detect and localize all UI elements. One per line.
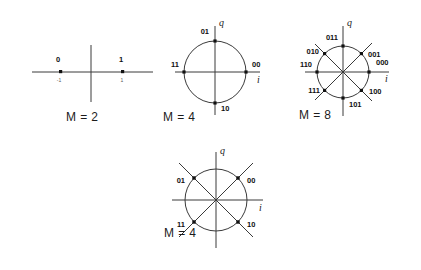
qpsk2-point-10 xyxy=(236,220,239,223)
qpsk2-point-00 xyxy=(236,176,239,179)
psk8-point-101 xyxy=(341,96,344,99)
qpsk-label-00: 00 xyxy=(252,60,260,69)
qpsk-label-01: 01 xyxy=(201,27,209,36)
qpsk-label-10: 10 xyxy=(221,104,229,113)
qpsk-offset-caption: M = 4 xyxy=(164,226,196,240)
bpsk-point-0 xyxy=(59,70,62,73)
psk8-label-100: 100 xyxy=(369,87,382,96)
psk8-label-010: 010 xyxy=(306,47,319,56)
psk8-label-111: 111 xyxy=(308,86,320,95)
qpsk-point-00 xyxy=(244,70,247,73)
bpsk-caption: M = 2 xyxy=(66,110,98,124)
bpsk-symbol-0: 0 xyxy=(56,55,60,64)
qpsk-i-axis-label: i xyxy=(257,74,260,85)
psk8-caption: M = 8 xyxy=(299,108,331,122)
psk8-i-axis-label: i xyxy=(385,73,388,84)
psk8-point-011 xyxy=(341,44,344,47)
qpsk2-point-01 xyxy=(192,176,195,179)
diagram-bpsk: 0 1 -1 1 xyxy=(30,30,155,115)
qpsk-point-11 xyxy=(182,70,185,73)
qpsk-point-10 xyxy=(213,101,216,104)
qpsk-point-01 xyxy=(213,39,216,42)
qpsk-caption: M = 4 xyxy=(163,110,195,124)
diagram-qpsk: 00 01 11 10 q i xyxy=(170,12,275,117)
psk8-label-110: 110 xyxy=(300,60,312,69)
bpsk-symbol-1: 1 xyxy=(119,55,123,64)
psk8-point-111 xyxy=(323,89,326,92)
qpsk-q-axis-label: q xyxy=(219,17,224,28)
psk8-point-100 xyxy=(360,89,363,92)
psk8-q-axis-label: q xyxy=(347,17,352,28)
bpsk-amplitude-plus1: 1 xyxy=(121,77,124,83)
psk8-label-011: 011 xyxy=(326,33,338,42)
psk8-point-110 xyxy=(315,70,318,73)
bpsk-amplitude-minus1: -1 xyxy=(57,77,62,83)
psk8-point-001 xyxy=(360,52,363,55)
qpsk2-q-axis-label: q xyxy=(220,145,225,156)
qpsk2-label-00: 00 xyxy=(247,176,255,185)
bpsk-point-1 xyxy=(121,70,124,73)
psk8-label-001: 001 xyxy=(368,50,381,59)
qpsk2-point-11 xyxy=(192,220,195,223)
qpsk-label-11: 11 xyxy=(171,60,179,69)
psk8-point-000 xyxy=(367,70,370,73)
qpsk2-label-10: 10 xyxy=(247,220,255,229)
psk8-label-000: 000 xyxy=(376,58,389,67)
diagram-8psk: 000 001 011 010 110 111 101 100 q i xyxy=(295,12,421,122)
psk8-label-101: 101 xyxy=(349,100,362,109)
qpsk2-i-axis-label: i xyxy=(259,202,262,213)
psk8-point-010 xyxy=(323,52,326,55)
qpsk2-label-01: 01 xyxy=(177,176,185,185)
constellation-figure: 0 1 -1 1 M = 2 00 01 11 10 q i M = 4 xyxy=(0,0,421,270)
